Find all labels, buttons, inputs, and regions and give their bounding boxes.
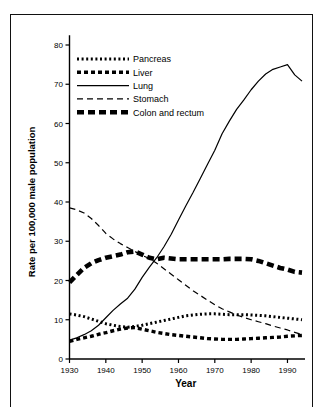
y-tick-label: 80 [54,41,63,50]
legend-label-liver: Liver [133,68,153,78]
series-line-pancreas [70,314,303,327]
series-line-stomach [70,208,303,335]
y-axis-title: Rate per 100,000 male population [26,127,37,278]
legend-label-pancreas: Pancreas [133,54,172,64]
y-tick-label: 70 [54,80,63,89]
legend-label-lung: Lung [133,81,153,91]
y-tick-label: 10 [54,316,63,325]
x-tick-label: 1950 [133,366,151,375]
x-tick-label: 1940 [97,366,115,375]
y-tick-label: 0 [59,355,64,364]
series-line-lung [70,65,303,341]
y-tick-label: 50 [54,159,63,168]
x-tick-label: 1990 [279,366,297,375]
series-line-colon-and-rectum [70,251,303,282]
y-tick-label: 30 [54,237,63,246]
y-tick-label: 20 [54,277,63,286]
series-line-liver [70,328,303,342]
y-tick-label: 40 [54,198,63,207]
x-axis-ticks: 1930194019501960197019801990 [61,359,297,375]
line-chart: 01020304050607080 1930194019501960197019… [11,15,314,407]
y-tick-label: 60 [54,120,63,129]
axes-group [70,35,306,359]
legend-label-stomach: Stomach [133,94,169,104]
x-axis-title: Year [175,378,196,389]
x-tick-label: 1980 [242,366,260,375]
y-axis-ticks: 01020304050607080 [54,41,69,364]
legend-label-colon-and-rectum: Colon and rectum [133,108,204,118]
x-tick-label: 1960 [170,366,188,375]
data-series-group [70,65,303,342]
x-tick-label: 1970 [206,366,224,375]
x-tick-label: 1930 [61,366,79,375]
figure-frame: 01020304050607080 1930194019501960197019… [10,14,313,407]
chart-legend: PancreasLiverLungStomachColon and rectum [77,54,204,117]
chart-screenshot: 01020304050607080 1930194019501960197019… [0,0,323,407]
